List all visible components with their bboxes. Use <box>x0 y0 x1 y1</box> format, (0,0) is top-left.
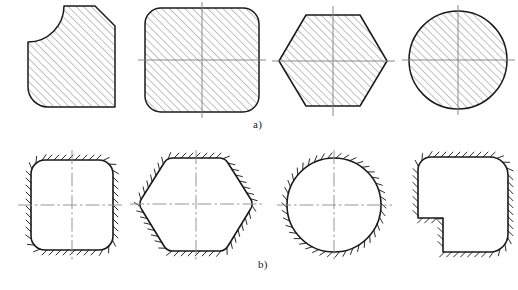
shape-b4-notched-rounded-rectangle <box>413 152 513 258</box>
shape-a1-rounded-square-with-chamfer <box>28 6 115 107</box>
caption-b: b) <box>258 258 268 270</box>
shape-b3-circle <box>277 150 392 262</box>
caption-a: a) <box>253 118 262 130</box>
row-b-sections <box>18 150 513 262</box>
row-a-sections <box>28 2 515 118</box>
shape-b2-hexagon <box>130 150 262 262</box>
technical-drawing-figure <box>0 0 518 290</box>
shape-b4-outline <box>418 157 508 252</box>
shape-a3-hexagon <box>272 6 395 116</box>
shape-a4-circle <box>402 5 515 115</box>
shape-a2-rounded-square <box>138 2 266 118</box>
shape-a1-hatch-fill <box>28 6 115 107</box>
shape-b4-external-hatch <box>413 152 513 258</box>
shape-b1-rounded-square <box>18 150 125 262</box>
